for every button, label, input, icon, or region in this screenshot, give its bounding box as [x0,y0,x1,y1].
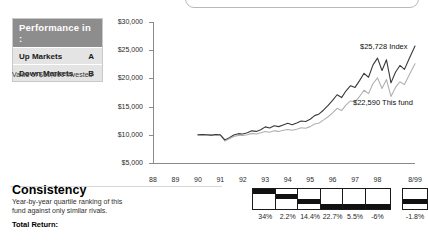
x-axis-line [153,163,415,164]
up-markets-grade: A [88,52,96,61]
x-axis-tick-label: 89 [172,176,180,184]
quartile-return-value: -6% [365,213,391,221]
quartile-fill [276,194,300,199]
x-axis-tick-label: 8/99 [408,176,422,184]
quartile-fill [366,204,390,209]
x-axis-tick-label: 91 [216,176,224,184]
x-axis-tick-label: 98 [374,176,382,184]
fund-annotation: $22,590 This fund [353,98,413,107]
index-annotation: $25,728 Index [360,42,408,51]
quartile-column: -6% [365,188,391,221]
up-markets-label: Up Markets [19,52,62,61]
quartile-bar [402,188,428,210]
panel-top-frame [185,0,419,8]
consistency-title: Consistency [12,183,132,197]
x-axis-tick-label: 90 [194,176,202,184]
y-axis-tick-label: $15,000 [118,103,143,111]
total-return-label: Total Return: [12,220,132,229]
x-axis-labels: 88899091929394959697988/99 [153,176,415,186]
quartile-fill [321,204,345,209]
y-axis-tick-label: $20,000 [118,74,143,82]
performance-box-header: Performance in : [13,19,102,47]
y-axis-tick [149,163,153,164]
quartile-column: -1.8% [402,188,428,221]
quartile-return-value: -1.8% [402,213,428,221]
quartile-ranking-row: 34%2.2%14.4%22.7%5.5%-6%-1.8% [153,188,415,236]
y-axis-tick [149,135,153,136]
quartile-fill [253,189,277,194]
performance-row-up-markets: Up Markets A [13,47,102,64]
y-axis-tick-label: $30,000 [118,18,143,26]
x-axis-tick-label: 96 [329,176,337,184]
y-axis-tick [149,78,153,79]
y-axis-tick [149,107,153,108]
x-axis-tick-label: 94 [284,176,292,184]
quartile-bar [365,188,391,210]
y-axis-tick-label: $10,000 [118,131,143,139]
growth-chart: $30,000$25,000$20,000$15,000$10,000$5,00… [105,14,415,174]
y-axis-tick-label: $5,000 [122,159,143,167]
quartile-fill [298,199,322,204]
quartile-fill [403,199,427,204]
x-axis-tick-label: 92 [239,176,247,184]
y-axis-tick-label: $25,000 [118,46,143,54]
chart-line-index [198,46,415,140]
consistency-section: Consistency Year-by-year quartile rankin… [12,183,132,229]
quartile-fill [343,204,367,209]
consistency-subtitle: Year-by-year quartile ranking of this fu… [12,198,132,215]
x-axis-tick-label: 93 [261,176,269,184]
x-axis-tick-label: 95 [306,176,314,184]
y-axis-labels: $30,000$25,000$20,000$15,000$10,000$5,00… [105,14,147,162]
x-axis-tick-label: 97 [351,176,359,184]
x-axis-tick-label: 88 [149,176,157,184]
y-axis-tick [149,50,153,51]
y-axis-tick [149,22,153,23]
